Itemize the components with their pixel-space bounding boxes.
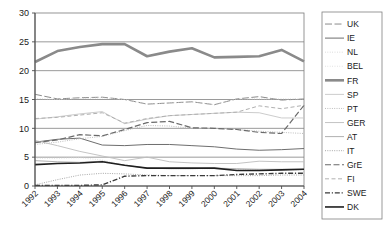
x-tick-label: 2001 — [221, 188, 242, 209]
y-axis-ticks: 051015202530 — [19, 8, 35, 191]
line-chart: 0510152025301992199319941995199619971998… — [0, 0, 387, 231]
legend: UKIENLBELFRSPPTGERATITGrEFISWEDK — [322, 12, 382, 219]
legend-label-dk: DK — [347, 202, 359, 212]
x-tick-label: 2003 — [266, 188, 287, 209]
legend-label-uk: UK — [347, 19, 359, 29]
y-tick-label: 10 — [19, 124, 29, 134]
x-tick-label: 2000 — [199, 188, 220, 209]
legend-label-fr: FR — [347, 76, 358, 86]
legend-label-nl: NL — [347, 47, 358, 57]
legend-label-gre: GrE — [347, 160, 362, 170]
legend-label-swe: SWE — [347, 188, 367, 198]
x-tick-label: 1996 — [109, 188, 130, 209]
x-tick-label: 1994 — [64, 188, 85, 209]
x-tick-label: 1998 — [154, 188, 175, 209]
y-tick-label: 0 — [24, 181, 29, 191]
legend-label-at: AT — [347, 132, 357, 142]
legend-label-it: IT — [347, 146, 355, 156]
chart-figure: 0510152025301992199319941995199619971998… — [0, 0, 387, 231]
legend-label-sp: SP — [347, 90, 359, 100]
legend-label-ger: GER — [347, 118, 365, 128]
x-tick-label: 1992 — [19, 188, 40, 209]
y-tick-label: 20 — [19, 66, 29, 76]
y-tick-label: 25 — [19, 37, 29, 47]
y-tick-label: 15 — [19, 95, 29, 105]
legend-label-fi: FI — [347, 174, 355, 184]
x-tick-label: 1999 — [176, 188, 197, 209]
x-axis-ticks: 1992199319941995199619971998199920002001… — [19, 186, 309, 209]
x-tick-label: 1993 — [42, 188, 63, 209]
x-tick-label: 1995 — [87, 188, 108, 209]
x-tick-label: 2004 — [288, 188, 309, 209]
x-tick-label: 2002 — [244, 188, 265, 209]
x-tick-label: 1997 — [132, 188, 153, 209]
legend-label-bel: BEL — [347, 61, 363, 71]
y-tick-label: 5 — [24, 152, 29, 162]
y-tick-label: 30 — [19, 8, 29, 18]
legend-label-pt: PT — [347, 104, 358, 114]
legend-label-ie: IE — [347, 33, 355, 43]
